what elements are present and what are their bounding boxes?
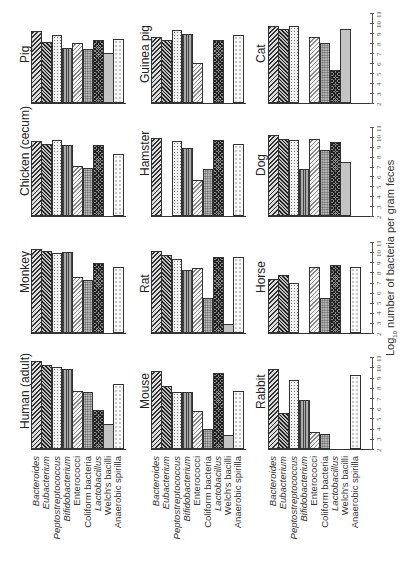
- bar-bacteroides: [268, 135, 279, 216]
- y-tick: [370, 367, 374, 368]
- bar-enterococci: [72, 166, 83, 216]
- bar-coliform-bacteria: [203, 169, 214, 216]
- y-tick-label: 11: [375, 240, 383, 247]
- y-axis-label-sub: 10: [392, 331, 398, 338]
- bar-lactobacillus: [93, 40, 104, 103]
- bar-bifidobacterium: [299, 400, 310, 449]
- panel-title: Mouse: [138, 373, 152, 409]
- panel-baseline: [31, 333, 126, 334]
- y-tick-label: 4: [375, 82, 383, 86]
- bar-bacteroides: [268, 369, 279, 449]
- y-tick: [370, 216, 374, 217]
- bar-welch-s-bacilli: [223, 435, 234, 449]
- bar-bacteroides: [31, 141, 42, 216]
- bar-lactobacillus: [93, 263, 104, 333]
- y-tick-label: 6: [375, 407, 383, 411]
- bar-coliform-bacteria: [320, 150, 331, 216]
- y-tick: [370, 242, 374, 243]
- category-label-peptostreptococcus: Peptostreptococcus: [51, 456, 62, 562]
- bar-bifidobacterium: [62, 369, 73, 449]
- bar-eubacterium: [161, 386, 172, 449]
- bar-bacteroides: [151, 371, 162, 449]
- panel-rabbit: [268, 354, 362, 449]
- bar-enterococci: [192, 180, 203, 216]
- bar-enterococci: [309, 37, 320, 103]
- panel-horse: [268, 238, 362, 333]
- y-tick-label: 10: [375, 365, 383, 372]
- y-tick-label: 8: [375, 42, 383, 46]
- bar-bifidobacterium: [182, 270, 193, 333]
- bar-lactobacillus: [93, 145, 104, 216]
- category-label-peptostreptococcus: Peptostreptococcus: [171, 456, 182, 562]
- y-tick-label: 2: [375, 215, 383, 219]
- panel-title: Rat: [138, 274, 152, 293]
- bar-bifidobacterium: [182, 392, 193, 449]
- y-tick: [370, 167, 374, 168]
- bacteria-figure: Human (adult)MonkeyChicken (cecum)PigMou…: [0, 0, 401, 562]
- y-tick: [370, 272, 374, 273]
- category-label-anaerobic-spirilla: Anaerobic spirilla: [112, 456, 123, 562]
- bar-eubacterium: [278, 275, 289, 333]
- bar-peptostreptococcus: [289, 380, 300, 449]
- y-tick: [370, 388, 374, 389]
- panel-title: Monkey: [18, 251, 32, 293]
- bar-lactobacillus: [213, 40, 224, 103]
- category-label-anaerobic-spirilla: Anaerobic spirilla: [349, 456, 360, 562]
- y-tick-label: 7: [375, 166, 383, 170]
- bar-peptostreptococcus: [172, 392, 183, 449]
- y-tick-label: 7: [375, 397, 383, 401]
- panel-hamster: [151, 121, 245, 216]
- y-tick-label: 11: [375, 355, 383, 362]
- y-tick: [370, 127, 374, 128]
- panel-baseline: [31, 103, 126, 104]
- bar-lactobacillus: [330, 142, 341, 216]
- panel-title: Rabbit: [254, 374, 268, 409]
- y-tick: [370, 147, 374, 148]
- y-tick: [370, 313, 374, 314]
- bar-bacteroides: [31, 249, 42, 333]
- bar-welch-s-bacilli: [103, 424, 114, 450]
- panel-monkey: [31, 238, 125, 333]
- bar-eubacterium: [41, 251, 52, 333]
- y-tick: [370, 83, 374, 84]
- y-tick: [370, 157, 374, 158]
- y-axis-label-prefix: Log: [384, 338, 396, 356]
- category-label-enterococci: Enterococci: [308, 456, 319, 562]
- y-tick-label: 5: [375, 417, 383, 421]
- bar-eubacterium: [161, 40, 172, 103]
- bar-coliform-bacteria: [320, 43, 331, 103]
- y-tick: [370, 13, 374, 14]
- y-tick-label: 2: [375, 102, 383, 106]
- panel-baseline: [31, 216, 126, 217]
- y-axis: [372, 127, 373, 216]
- bar-bifidobacterium: [62, 48, 73, 103]
- bar-eubacterium: [161, 255, 172, 333]
- y-tick: [370, 439, 374, 440]
- bar-peptostreptococcus: [52, 367, 63, 449]
- panel-baseline: [268, 333, 363, 334]
- y-tick-label: 4: [375, 195, 383, 199]
- panel-title: Hamster: [138, 131, 152, 176]
- panel-baseline: [151, 216, 246, 217]
- y-tick: [370, 378, 374, 379]
- panel-baseline: [151, 449, 246, 450]
- y-tick-label: 6: [375, 175, 383, 179]
- y-tick: [370, 398, 374, 399]
- y-tick-label: 3: [375, 322, 383, 326]
- y-tick-label: 9: [375, 377, 383, 381]
- y-tick-label: 8: [375, 387, 383, 391]
- bar-enterococci: [72, 43, 83, 103]
- bar-coliform-bacteria: [203, 429, 214, 449]
- y-axis-label-rest: number of bacteria per gram feces: [384, 160, 396, 331]
- y-tick-label: 6: [375, 62, 383, 66]
- y-tick-label: 9: [375, 32, 383, 36]
- y-tick-label: 11: [375, 11, 383, 18]
- panel-guinea-pig: [151, 8, 245, 103]
- y-tick-label: 7: [375, 52, 383, 56]
- panel-human-adult: [31, 354, 125, 449]
- bar-enterococci: [309, 139, 320, 216]
- bar-coliform-bacteria: [83, 280, 94, 333]
- bar-anaerobic-spirilla: [113, 267, 124, 333]
- category-label-eubacterium: Eubacterium: [40, 456, 51, 562]
- y-tick-label: 10: [375, 21, 383, 28]
